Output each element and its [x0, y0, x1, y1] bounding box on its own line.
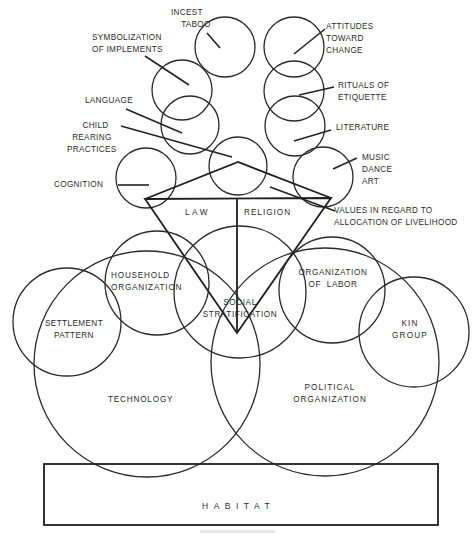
leader-literature [294, 130, 331, 141]
leader-rituals [299, 87, 334, 95]
label-incest-taboo: INCEST TABOO [171, 7, 211, 31]
leader-attitudes [294, 29, 325, 54]
faded-caption [200, 530, 275, 533]
label-technology: TECHNOLOGY [108, 394, 173, 406]
circle-child-rearing [209, 137, 267, 195]
label-values-livelihood: VALUES IN REGARD TO ALLOCATION OF LIVELI… [334, 205, 458, 229]
label-language: LANGUAGE [85, 95, 133, 107]
label-religion: RELIGION [244, 207, 291, 219]
label-law: LAW [185, 207, 210, 219]
label-organization-of-labor: ORGANIZATION OF LABOR [293, 267, 373, 291]
label-symbolization-of-implements: SYMBOLIZATION OF IMPLEMENTS [92, 32, 163, 56]
habitat-box [44, 464, 438, 525]
circle-attitudes-toward-change [264, 17, 324, 77]
label-kin-group: KIN GROUP [380, 318, 440, 342]
culture-diagram [0, 0, 475, 537]
label-attitudes-toward-change: ATTITUDES TOWARD CHANGE [326, 21, 374, 57]
label-habitat: HABITAT [202, 500, 275, 512]
label-music-dance-art: MUSIC DANCE ART [362, 152, 392, 188]
label-settlement-pattern: SETTLEMENT PATTERN [40, 318, 108, 342]
circle-symbolization-of-implements [152, 60, 212, 120]
label-social-stratification: SOCIAL STRATIFICATION [192, 297, 288, 321]
circle-literature [265, 96, 325, 156]
label-literature: LITERATURE [336, 122, 389, 134]
label-political-organization: POLITICAL ORGANIZATION [280, 382, 380, 406]
label-rituals-of-etiquette: RITUALS OF ETIQUETTE [338, 80, 389, 104]
label-child-rearing-practices: CHILD REARING PRACTICES [67, 120, 117, 156]
leader-music [333, 158, 357, 169]
label-cognition: COGNITION [54, 179, 103, 191]
label-household-organization: HOUSEHOLD ORGANIZATION [111, 270, 182, 294]
leader-incest-taboo [207, 33, 220, 48]
roof-line [145, 162, 331, 199]
